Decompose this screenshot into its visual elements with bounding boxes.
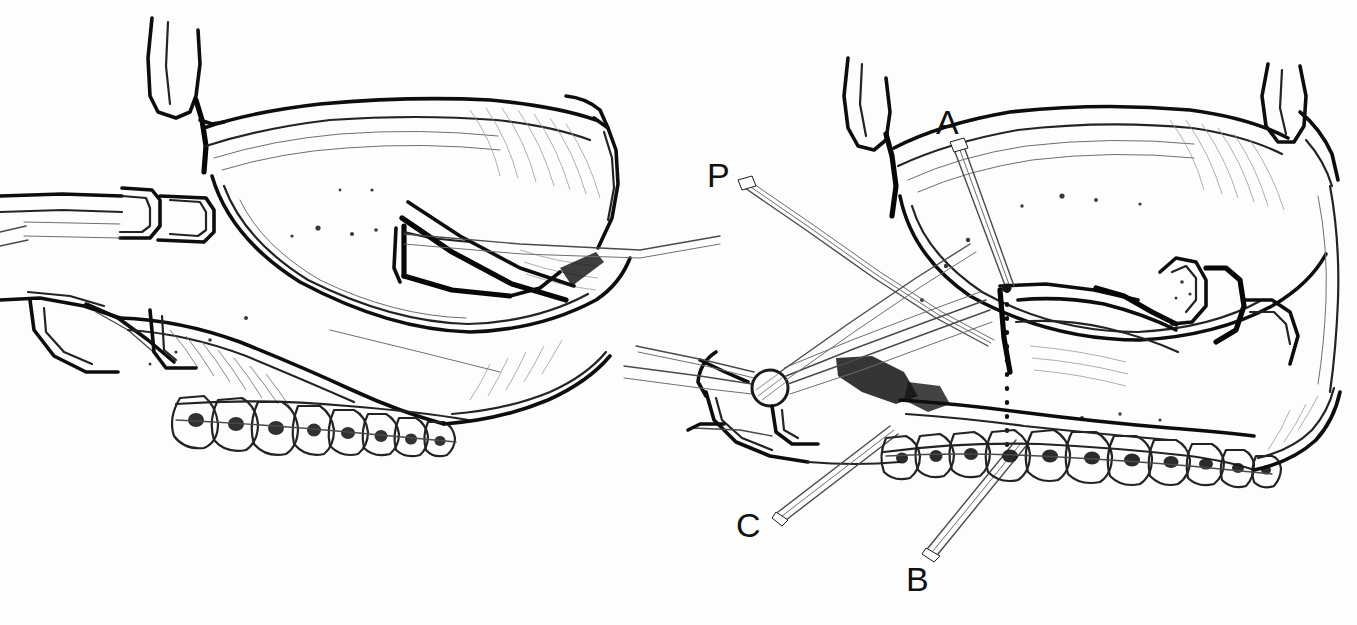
illustration-svg [0,0,1357,625]
right-illustration [624,58,1340,562]
figure-canvas: P A C B [0,0,1357,625]
instrument-hub-circle [752,370,788,406]
label-b: B [906,562,929,596]
label-c: C [736,508,761,542]
label-a: A [936,105,959,139]
label-p: P [707,158,730,192]
right-dentition [881,430,1281,487]
left-illustration [0,18,720,456]
left-dentition [172,396,468,456]
